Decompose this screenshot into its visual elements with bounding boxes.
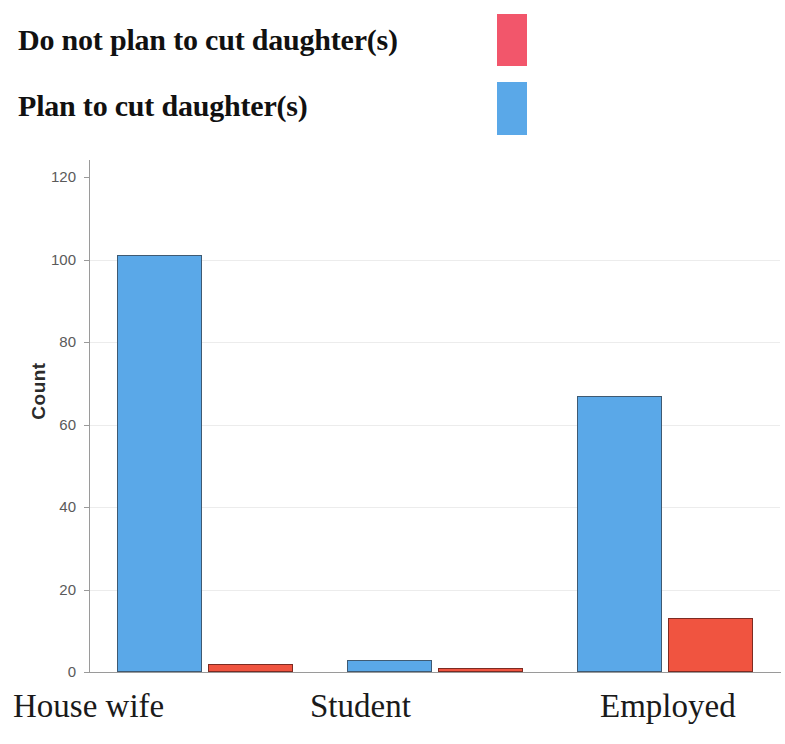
y-tick-label: 0 (30, 663, 76, 680)
y-tick-label: 40 (30, 498, 76, 515)
x-tick-label: Employed (600, 688, 736, 725)
y-tick-label: 100 (30, 251, 76, 268)
plot-area (90, 177, 780, 672)
bar (117, 255, 202, 672)
x-tick-label: Student (310, 688, 411, 725)
y-tick-label: 80 (30, 333, 76, 350)
bar (668, 618, 753, 672)
bar (438, 668, 523, 672)
y-tick-label: 60 (30, 416, 76, 433)
bar (347, 660, 432, 672)
y-tick-label: 20 (30, 581, 76, 598)
bar (577, 396, 662, 672)
y-tick-label: 120 (30, 168, 76, 185)
x-tick-label: House wife (13, 688, 164, 725)
bar-chart: Count 020406080100120 House wifeStudentE… (0, 0, 785, 744)
y-tick-mark (84, 672, 90, 673)
bar (208, 664, 293, 672)
x-axis-line (89, 672, 781, 673)
